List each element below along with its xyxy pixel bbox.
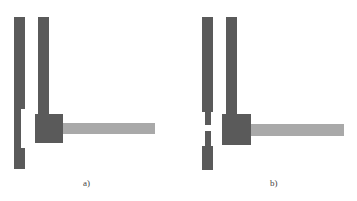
panel-b-left-strip-lower: [202, 146, 213, 170]
panel-a-left-strip-lower: [14, 148, 25, 169]
panel-a-square-pad: [35, 114, 63, 143]
panel-a-left-strip-notch: [14, 109, 21, 148]
panel-b-label: b): [270, 178, 278, 188]
panel-b-horizontal-bar: [251, 124, 344, 136]
panel-a-feed-line: [38, 17, 49, 115]
panel-a-label: a): [83, 178, 90, 188]
panel-a-left-strip-upper: [14, 17, 25, 109]
panel-a-horizontal-bar: [63, 123, 155, 134]
panel-b-square-pad: [222, 114, 251, 145]
panel-b-feed-line: [226, 17, 237, 115]
panel-b-neck-lower: [205, 131, 211, 147]
panel-b-left-strip-upper: [202, 17, 213, 112]
panel-b-neck-upper: [205, 111, 211, 125]
